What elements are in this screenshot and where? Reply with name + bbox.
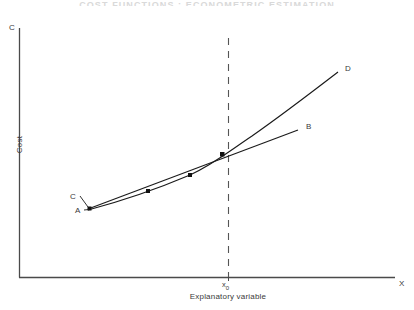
plot-canvas [0,0,414,310]
x0-tick-subscript: 0 [226,285,229,291]
data-marker [146,189,150,193]
series-ab-line [88,130,298,209]
y-axis-title: Cost [15,115,24,175]
curve-label-d: D [345,65,351,73]
x-axis-title: Explanatory variable [148,292,308,301]
x0-tick-label: x0 [222,281,229,291]
curve-label-b: B [306,123,311,131]
cost-function-figure: COST FUNCTIONS : ECONOMETRIC ESTIMATION … [0,0,414,310]
label-a-leader [84,210,89,211]
curve-label-c: C [70,193,76,201]
data-marker [220,152,225,157]
x-axis-tip-label: X [399,280,404,288]
series-cd-curve [88,72,338,210]
data-marker [188,173,192,177]
label-c-leader [80,196,88,207]
y-axis-tip-label: C [9,24,15,32]
curve-label-a: A [75,207,80,215]
